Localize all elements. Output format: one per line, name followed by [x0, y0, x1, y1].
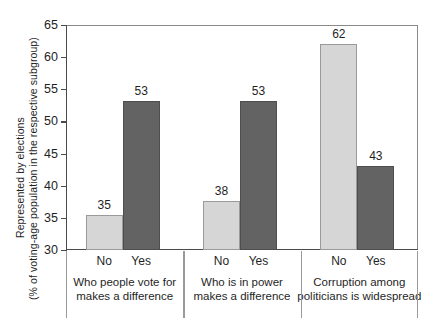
axis-stub-left	[66, 251, 67, 318]
category-label-no: No	[96, 254, 111, 268]
group-label-line2: politicians is widespread	[297, 290, 421, 304]
group-label-2: Who is in powermakes a difference	[194, 276, 291, 303]
y-tick-mark	[61, 57, 66, 58]
plot-right-border	[417, 25, 418, 250]
bar-1-no	[86, 215, 123, 250]
group-label-line1: Corruption among	[297, 276, 421, 290]
bar-2-no	[203, 201, 240, 251]
axis-stub-right	[417, 251, 418, 318]
bar-3-yes	[357, 166, 394, 250]
y-tick-mark	[61, 25, 66, 26]
y-axis-title-line2: (% of voting-age population in the respe…	[27, 37, 39, 300]
y-axis-title-line1: Represented by elections	[14, 117, 26, 238]
bar-value-label: 43	[369, 149, 382, 163]
y-tick-label: 35	[44, 211, 58, 225]
group-label-1: Who people vote formakes a difference	[73, 276, 176, 303]
y-axis-title: Represented by elections (% of voting-ag…	[0, 0, 46, 300]
y-tick-label: 55	[44, 82, 58, 96]
category-label-yes: Yes	[366, 254, 386, 268]
y-tick-label: 45	[44, 147, 58, 161]
y-tick-mark	[61, 121, 66, 122]
category-label-no: No	[214, 254, 229, 268]
y-tick-label: 65	[44, 18, 58, 32]
bar-1-yes	[123, 101, 160, 250]
bar-value-label: 53	[252, 84, 265, 98]
category-label-no: No	[331, 254, 346, 268]
y-tick-label: 40	[44, 179, 58, 193]
y-tick-mark	[61, 218, 66, 219]
bar-2-yes	[240, 101, 277, 250]
bar-value-label: 62	[332, 27, 345, 41]
y-tick-mark	[61, 186, 66, 187]
y-tick-label: 60	[44, 50, 58, 64]
group-separator	[183, 251, 184, 318]
group-separator	[301, 251, 302, 318]
category-label-yes: Yes	[131, 254, 151, 268]
plot-top-border	[66, 25, 418, 26]
category-label-yes: Yes	[249, 254, 269, 268]
group-label-line1: Who is in power	[194, 276, 291, 290]
group-label-line1: Who people vote for	[73, 276, 176, 290]
bar-value-label: 53	[134, 84, 147, 98]
y-tick-label: 30	[44, 243, 58, 257]
bar-chart: Represented by elections (% of voting-ag…	[0, 0, 434, 318]
y-axis-line	[66, 25, 67, 251]
plot-area: 3035404550556065 355338536243	[66, 25, 418, 250]
group-label-line2: makes a difference	[194, 290, 291, 304]
group-label-3: Corruption amongpoliticians is widesprea…	[297, 276, 421, 303]
category-label-area: NoYesWho people vote formakes a differen…	[66, 251, 418, 318]
y-tick-label: 50	[44, 114, 58, 128]
y-tick-mark	[61, 89, 66, 90]
group-label-line2: makes a difference	[73, 290, 176, 304]
bar-value-label: 38	[215, 184, 228, 198]
bar-3-no	[320, 44, 357, 250]
bar-value-label: 35	[97, 198, 110, 212]
y-tick-mark	[61, 154, 66, 155]
